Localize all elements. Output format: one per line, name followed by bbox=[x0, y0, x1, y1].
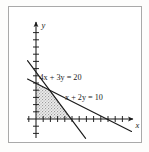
figure-root: y x 4x + 3y = 20 x + 2y = 10 bbox=[0, 0, 149, 152]
x-axis-label: x bbox=[135, 120, 140, 130]
equation-label-line1: 4x + 3y = 20 bbox=[40, 73, 82, 82]
equation-label-line2: x + 2y = 10 bbox=[65, 93, 103, 102]
coordinate-plane-plot: y x 4x + 3y = 20 x + 2y = 10 bbox=[0, 0, 149, 152]
y-axis-label: y bbox=[41, 20, 46, 30]
y-axis bbox=[33, 22, 39, 138]
x-axis bbox=[27, 116, 133, 122]
